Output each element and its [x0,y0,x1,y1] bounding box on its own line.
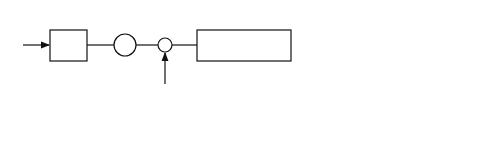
diagram-lines [0,0,479,163]
